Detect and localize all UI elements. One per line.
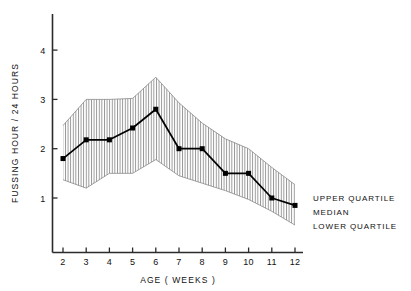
median-point — [107, 137, 112, 142]
legend-item-lower-quartile: LOWER QUARTILE — [313, 222, 397, 231]
median-point — [61, 156, 66, 161]
x-axis-tick-label: 7 — [176, 257, 181, 267]
median-point — [130, 125, 135, 130]
x-axis-tick-label: 6 — [153, 257, 158, 267]
x-axis-tick-label: 2 — [60, 257, 65, 267]
y-axis-tick-label: 3 — [40, 95, 45, 105]
median-point — [223, 171, 228, 176]
x-axis-tick-label: 3 — [84, 257, 89, 267]
y-axis-tick-label: 1 — [40, 194, 45, 204]
median-point — [177, 146, 182, 151]
median-point — [293, 203, 298, 208]
x-axis-tick-label: 8 — [200, 257, 205, 267]
median-point — [269, 196, 274, 201]
x-axis-tick-label: 10 — [243, 257, 254, 267]
x-axis-tick-label: 5 — [130, 257, 135, 267]
median-point — [84, 137, 89, 142]
x-axis-tick-label: 9 — [223, 257, 228, 267]
chart-figure: 1234 23456789101112 FUSSING HOUR / 24 HO… — [0, 0, 411, 291]
legend-item-median: MEDIAN — [313, 208, 350, 217]
median-point — [153, 107, 158, 112]
median-point — [200, 146, 205, 151]
x-axis-title: AGE ( WEEKS ) — [140, 275, 216, 285]
x-axis-tick-label: 12 — [290, 257, 301, 267]
x-axis-tick-label: 11 — [267, 257, 277, 267]
y-axis-tick-label: 4 — [40, 46, 45, 56]
y-axis-title: FUSSING HOUR / 24 HOURS — [10, 63, 20, 203]
legend-item-upper-quartile: UPPER QUARTILE — [313, 194, 395, 203]
y-axis-tick-label: 2 — [40, 144, 45, 154]
chart-canvas: 1234 23456789101112 FUSSING HOUR / 24 HO… — [0, 0, 411, 291]
x-axis-tick-label: 4 — [107, 257, 112, 267]
median-point — [246, 171, 251, 176]
